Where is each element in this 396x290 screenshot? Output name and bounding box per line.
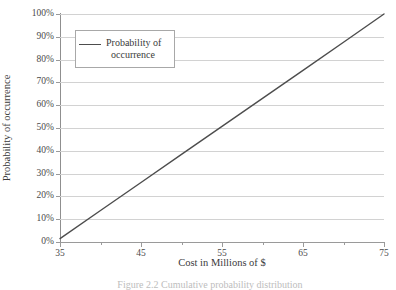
x-axis-title: Cost in Millions of $ bbox=[60, 258, 384, 269]
figure-caption: Figure 2.2 Cumulative probability distri… bbox=[60, 279, 360, 290]
y-tick-label-40: 40% bbox=[37, 146, 54, 156]
legend-line-swatch bbox=[79, 44, 101, 45]
x-tick-mark-55 bbox=[222, 242, 223, 247]
x-tick-mark-75 bbox=[384, 242, 385, 247]
legend-entry-label-line2: occurrence bbox=[106, 49, 170, 61]
x-tick-mark-40 bbox=[101, 242, 102, 245]
x-tick-mark-45 bbox=[141, 242, 142, 247]
legend-entry-label-line1: Probability of bbox=[106, 37, 161, 48]
legend-entry-label: Probability of occurrence bbox=[106, 37, 170, 61]
y-axis-title: Probability of occurrence bbox=[2, 14, 16, 242]
x-tick-mark-70 bbox=[344, 242, 345, 245]
y-tick-label-10: 10% bbox=[37, 214, 54, 224]
legend-box[interactable]: Probability of occurrence bbox=[75, 30, 175, 68]
y-tick-label-50: 50% bbox=[37, 123, 54, 133]
x-tick-mark-50 bbox=[182, 242, 183, 245]
y-tick-label-80: 80% bbox=[37, 55, 54, 65]
x-tick-mark-65 bbox=[303, 242, 304, 247]
y-tick-label-30: 30% bbox=[37, 169, 54, 179]
y-tick-label-100: 100% bbox=[32, 9, 54, 19]
y-tick-label-90: 90% bbox=[37, 32, 54, 42]
plot-area: 0%10%20%30%40%50%60%70%80%90%100% 354555… bbox=[60, 14, 384, 242]
y-tick-label-20: 20% bbox=[37, 192, 54, 202]
x-tick-mark-35 bbox=[60, 242, 61, 247]
y-tick-label-60: 60% bbox=[37, 100, 54, 110]
x-tick-mark-60 bbox=[263, 242, 264, 245]
y-tick-label-0: 0% bbox=[41, 237, 54, 247]
y-tick-label-70: 70% bbox=[37, 78, 54, 88]
